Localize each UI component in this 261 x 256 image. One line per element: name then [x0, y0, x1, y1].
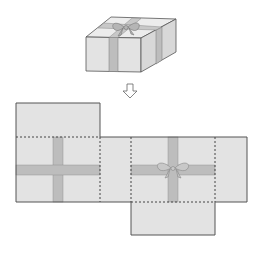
- ribbon-left-horizontal: [16, 165, 100, 175]
- gift-box-3d: [86, 17, 176, 72]
- net-panel-top-left: [16, 103, 100, 137]
- figure: [0, 0, 261, 256]
- box-net: [16, 103, 247, 235]
- ribbon-front: [109, 38, 118, 72]
- ribbon-right: [156, 27, 162, 64]
- net-panel-bottom: [131, 202, 215, 235]
- down-arrow-icon: [123, 84, 137, 98]
